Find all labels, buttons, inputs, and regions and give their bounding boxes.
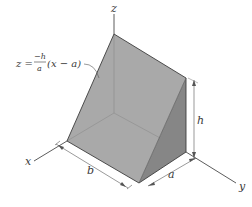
- equation-rhs: (x − a): [47, 58, 81, 69]
- x-axis-label: x: [25, 155, 32, 168]
- dimension-a-label: a: [168, 168, 175, 181]
- z-axis-label: z: [110, 2, 117, 15]
- equation-numerator: −h: [34, 52, 46, 61]
- plane-equation: z = −h a (x − a): [15, 52, 81, 73]
- y-axis-label: y: [238, 180, 246, 193]
- dimension-h-label: h: [197, 114, 204, 127]
- x-axis: [34, 141, 67, 161]
- equation-lhs: z =: [15, 58, 33, 69]
- dimension-b-label: b: [87, 164, 94, 177]
- equation-denominator: a: [37, 64, 42, 73]
- wedge-diagram: z x y b a h z = −h a (x − a): [0, 0, 252, 207]
- y-axis: [186, 152, 236, 183]
